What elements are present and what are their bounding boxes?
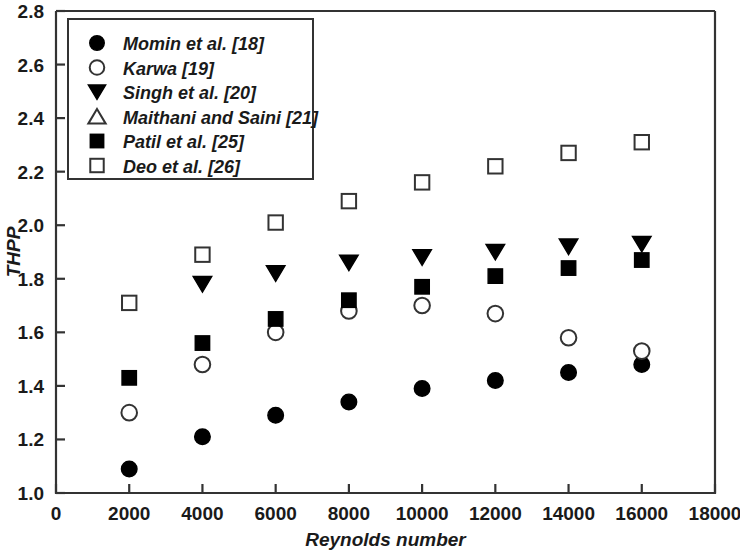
marker-open-square bbox=[635, 135, 649, 149]
x-tick-label: 8000 bbox=[328, 503, 370, 524]
marker-filled-triangle-down bbox=[632, 236, 651, 252]
y-tick-label: 2.8 bbox=[18, 1, 44, 22]
marker-filled-circle bbox=[268, 408, 284, 424]
marker-open-circle bbox=[121, 405, 137, 421]
marker-filled-square bbox=[90, 134, 103, 147]
marker-filled-triangle-down bbox=[193, 277, 212, 293]
marker-open-square bbox=[90, 159, 103, 172]
marker-filled-square bbox=[561, 261, 575, 275]
marker-open-circle bbox=[268, 325, 284, 341]
marker-filled-triangle-down bbox=[559, 239, 578, 255]
marker-filled-square bbox=[268, 312, 282, 326]
x-tick-label: 16000 bbox=[615, 503, 668, 524]
x-tick-label: 6000 bbox=[255, 503, 297, 524]
marker-filled-triangle-down bbox=[486, 244, 505, 260]
marker-open-circle bbox=[414, 298, 430, 314]
marker-open-circle bbox=[561, 330, 577, 346]
marker-open-square bbox=[342, 194, 356, 208]
marker-open-square bbox=[122, 296, 136, 310]
legend-label: Momin et al. [18] bbox=[123, 34, 265, 54]
x-axis-label: Reynolds number bbox=[305, 529, 467, 550]
marker-filled-circle bbox=[195, 429, 211, 445]
marker-open-square bbox=[561, 146, 575, 160]
marker-open-circle bbox=[488, 306, 504, 322]
legend-label: Patil et al. [25] bbox=[123, 132, 245, 152]
series-0 bbox=[121, 357, 649, 477]
legend-label: Singh et al. [20] bbox=[123, 83, 257, 103]
marker-filled-square bbox=[635, 253, 649, 267]
y-tick-label: 2.6 bbox=[18, 55, 44, 76]
marker-open-square bbox=[268, 215, 282, 229]
chart-container: 1.01.21.41.61.82.02.22.42.62.80200040006… bbox=[0, 0, 740, 551]
x-tick-label: 0 bbox=[51, 503, 62, 524]
legend-label: Deo et al. [26] bbox=[123, 157, 241, 177]
legend-label: Maithani and Saini [21] bbox=[123, 108, 319, 128]
x-tick-label: 14000 bbox=[542, 503, 595, 524]
y-tick-label: 1.2 bbox=[18, 429, 44, 450]
marker-open-square bbox=[488, 159, 502, 173]
x-tick-label: 12000 bbox=[469, 503, 522, 524]
x-tick-label: 2000 bbox=[108, 503, 150, 524]
marker-filled-square bbox=[195, 336, 209, 350]
marker-filled-square bbox=[342, 293, 356, 307]
chart-legend: Momin et al. [18]Karwa [19]Singh et al. … bbox=[68, 19, 319, 179]
marker-filled-square bbox=[415, 280, 429, 294]
marker-filled-triangle-down bbox=[413, 250, 432, 266]
y-tick-label: 2.2 bbox=[18, 162, 44, 183]
marker-filled-circle bbox=[341, 394, 357, 410]
y-tick-label: 1.6 bbox=[18, 322, 44, 343]
marker-filled-circle bbox=[414, 381, 430, 397]
legend-label: Karwa [19] bbox=[123, 59, 215, 79]
marker-open-circle bbox=[90, 60, 105, 75]
y-axis-label: THPP bbox=[3, 226, 24, 277]
x-tick-label: 18000 bbox=[689, 503, 740, 524]
marker-filled-circle bbox=[561, 365, 577, 381]
y-tick-label: 1.4 bbox=[18, 376, 45, 397]
marker-filled-triangle-down bbox=[340, 255, 359, 271]
x-tick-label: 4000 bbox=[181, 503, 223, 524]
marker-open-square bbox=[415, 175, 429, 189]
marker-filled-triangle-down bbox=[266, 266, 285, 282]
scatter-plot: 1.01.21.41.61.82.02.22.42.62.80200040006… bbox=[0, 0, 740, 551]
marker-filled-circle bbox=[90, 36, 105, 51]
marker-filled-square bbox=[122, 371, 136, 385]
marker-filled-circle bbox=[488, 373, 504, 389]
marker-filled-square bbox=[488, 269, 502, 283]
y-tick-label: 1.0 bbox=[18, 483, 44, 504]
marker-open-circle bbox=[634, 343, 650, 359]
marker-filled-circle bbox=[121, 461, 137, 477]
x-tick-label: 10000 bbox=[396, 503, 449, 524]
marker-open-circle bbox=[195, 357, 211, 373]
marker-open-square bbox=[195, 247, 209, 261]
y-tick-label: 2.4 bbox=[18, 108, 45, 129]
series-1 bbox=[121, 298, 649, 421]
data-points bbox=[121, 135, 651, 477]
